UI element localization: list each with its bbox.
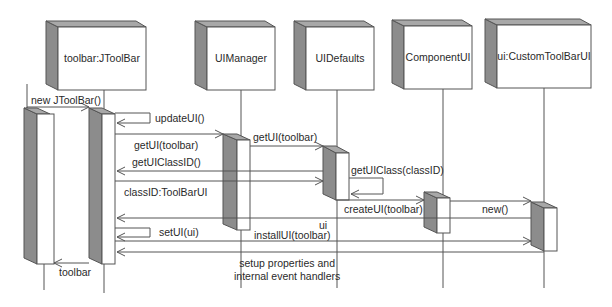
object-label-toolbar: toolbar:JToolBar [58,52,146,64]
label-installui: installUI(toolbar) [254,229,330,241]
activation-customtoolbarui [531,202,557,251]
activation-toolbar [89,108,115,264]
label-getuiclassid: getUIClassID() [132,156,201,168]
object-label-customtoolbarui: ui:CustomToolBarUI [497,50,591,62]
object-label-uidefaults: UIDefaults [306,52,374,64]
note-line-1: setup properties and [234,257,340,270]
message-getuiclass [349,178,383,194]
message-setui [115,228,150,237]
object-label-componentui: ComponentUI [404,51,472,63]
label-toolbar-return: toolbar [59,266,91,278]
label-getuiclass: getUIClass(classID) [351,164,444,176]
activation-client [24,108,54,264]
message-updateui [115,113,150,123]
object-label-uimanager: UIManager [207,52,275,64]
label-getui-uimanager: getUI(toolbar) [253,131,317,143]
label-classid-toolbarui: classID:ToolBarUI [124,186,207,198]
activation-componentui [424,192,450,233]
label-new: new() [482,203,508,215]
label-new-jtoolbar: new JToolBar() [31,94,101,106]
label-getui-toolbar: getUI(toolbar) [134,139,198,151]
label-updateui: updateUI() [155,112,205,124]
activation-uidefaults [323,146,349,200]
label-createui: createUI(toolbar) [344,203,423,215]
note-setup-properties: setup properties and internal event hand… [234,257,340,283]
activation-uimanager [223,134,250,230]
label-setui: setUI(ui) [159,226,199,238]
note-line-2: internal event handlers [234,270,340,283]
